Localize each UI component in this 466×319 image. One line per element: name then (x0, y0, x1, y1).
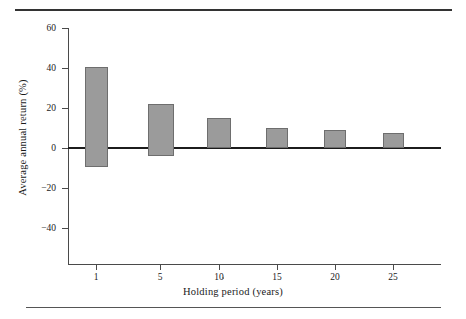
y-tick-0 (62, 148, 68, 149)
y-tick-40 (62, 68, 68, 69)
x-tick-label-10: 10 (204, 272, 234, 283)
y-tick-minus-40 (62, 228, 68, 229)
x-tick-15 (277, 265, 278, 270)
y-tick-20 (62, 108, 68, 109)
x-tick-10 (219, 265, 220, 270)
x-tick-label-25: 25 (378, 272, 408, 283)
x-tick-label-5: 5 (145, 272, 175, 283)
figure-container: 60 40 20 0 −20 −40 1 5 10 15 20 25 Holdi… (0, 0, 466, 319)
figure-bottom-rule (26, 307, 441, 308)
bar-5-year (148, 104, 174, 156)
x-tick-label-20: 20 (320, 272, 350, 283)
x-axis-line (68, 264, 441, 265)
y-tick-minus-20 (62, 188, 68, 189)
y-tick-60 (62, 28, 68, 29)
bar-25-year (383, 133, 404, 148)
y-axis-title: Average annual return (%) (17, 58, 28, 218)
bar-20-year (324, 130, 346, 148)
bar-15-year (266, 128, 288, 148)
x-axis-title: Holding period (years) (0, 286, 466, 297)
x-tick-label-1: 1 (81, 272, 111, 283)
x-tick-25 (393, 265, 394, 270)
y-tick-label-60: 60 (20, 23, 56, 33)
bar-10-year (207, 118, 231, 148)
figure-top-rule (15, 9, 452, 11)
bar-1-year (85, 67, 108, 167)
x-tick-1 (96, 265, 97, 270)
x-tick-5 (160, 265, 161, 270)
y-tick-label-minus-40: −40 (20, 223, 56, 233)
x-tick-label-15: 15 (262, 272, 292, 283)
x-tick-20 (335, 265, 336, 270)
print-artifact-dot (222, 277, 224, 279)
